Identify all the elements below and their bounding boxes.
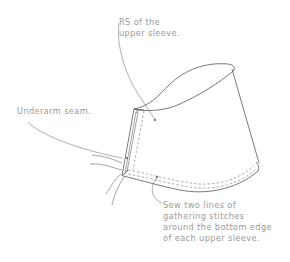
underarm-leader-dot — [126, 157, 128, 159]
fabric-thread-1 — [92, 155, 122, 163]
gathering-leader-dot — [156, 176, 158, 178]
sleeve-right-edge — [232, 69, 259, 163]
fabric-thread-3 — [106, 174, 121, 194]
rs-upper-sleeve-label: RS of the upper sleeve. — [119, 17, 180, 39]
underarm-seam-inner-2 — [127, 112, 138, 172]
sleeve-right-corner — [256, 162, 259, 172]
gathering-leader-line — [152, 178, 162, 203]
rs-leader-dot — [154, 119, 156, 121]
gathering-stitches-label: Sew two lines of gathering stitches arou… — [163, 200, 272, 244]
sleeve-diagram: RS of the upper sleeve. Underarm seam. S… — [0, 0, 290, 262]
gathering-stitch-line-2 — [128, 169, 256, 188]
gathering-stitch-line-1 — [128, 165, 254, 184]
underarm-seam-inner — [125, 112, 136, 174]
underarm-seam-label: Underarm seam. — [17, 106, 91, 117]
sleeve-bottom-edge — [123, 172, 257, 192]
fabric-thread-2 — [90, 164, 122, 170]
sleeve-cap-outline — [134, 64, 234, 111]
fabric-thread-4 — [112, 177, 124, 205]
underarm-leader-line — [28, 122, 122, 158]
seam-top-fold — [134, 109, 138, 113]
